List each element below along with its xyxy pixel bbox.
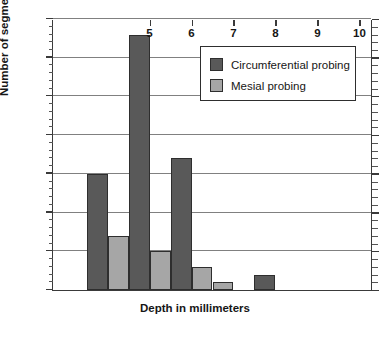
right-tick-minor bbox=[372, 50, 378, 51]
right-tick-minor bbox=[372, 89, 378, 90]
y-tick-minor bbox=[49, 88, 53, 89]
y-tick-major bbox=[46, 95, 53, 96]
y-tick-minor bbox=[49, 181, 53, 182]
right-tick-major bbox=[372, 290, 379, 291]
y-tick-minor bbox=[49, 103, 53, 104]
right-tick-minor bbox=[372, 65, 378, 66]
y-tick-minor bbox=[49, 165, 53, 166]
right-tick-minor bbox=[372, 220, 378, 221]
y-tick-minor bbox=[49, 150, 53, 151]
right-tick-major bbox=[372, 135, 379, 136]
y-tick-minor bbox=[49, 258, 53, 259]
x-tick-label: 6 bbox=[180, 27, 204, 39]
bar-chart: Number of segments 05101520253035 567891… bbox=[0, 0, 390, 341]
y-tick-major bbox=[46, 211, 53, 212]
x-tick-label: 7 bbox=[221, 27, 245, 39]
right-tick-minor bbox=[372, 120, 378, 121]
x-tick bbox=[192, 20, 193, 26]
y-tick-major bbox=[46, 18, 53, 19]
right-tick-minor bbox=[372, 282, 378, 283]
y-tick-minor bbox=[49, 235, 53, 236]
y-tick-minor bbox=[49, 157, 53, 158]
right-tick-minor bbox=[372, 112, 378, 113]
y-tick-minor bbox=[49, 188, 53, 189]
y-tick-minor bbox=[49, 111, 53, 112]
y-tick-minor bbox=[49, 41, 53, 42]
y-tick-minor bbox=[49, 142, 53, 143]
right-tick-minor bbox=[372, 27, 378, 28]
right-tick-minor bbox=[372, 35, 378, 36]
right-tick-minor bbox=[372, 104, 378, 105]
y-tick-minor bbox=[49, 266, 53, 267]
y-tick-minor bbox=[49, 227, 53, 228]
right-tick-minor bbox=[372, 151, 378, 152]
right-tick-minor bbox=[372, 158, 378, 159]
y-tick-major bbox=[46, 56, 53, 57]
legend-item: Mesial probing bbox=[210, 75, 355, 96]
bar bbox=[87, 174, 108, 290]
bar bbox=[213, 282, 234, 290]
bar bbox=[129, 35, 150, 291]
y-tick-minor bbox=[49, 80, 53, 81]
right-axis-ticks bbox=[371, 20, 379, 291]
legend-swatch-circumferential bbox=[210, 58, 223, 71]
legend-swatch-mesial bbox=[210, 79, 223, 92]
gridline bbox=[53, 134, 371, 135]
y-tick-minor bbox=[49, 204, 53, 205]
y-axis-title: Number of segments bbox=[0, 0, 10, 96]
bar bbox=[192, 267, 213, 290]
x-tick bbox=[233, 20, 234, 26]
right-tick-major bbox=[372, 173, 379, 174]
y-tick-major bbox=[46, 289, 53, 290]
right-tick-minor bbox=[372, 182, 378, 183]
right-tick-minor bbox=[372, 189, 378, 190]
right-tick-minor bbox=[372, 42, 378, 43]
right-tick-major bbox=[372, 57, 379, 58]
right-tick-minor bbox=[372, 166, 378, 167]
y-tick-minor bbox=[49, 49, 53, 50]
right-tick-minor bbox=[372, 205, 378, 206]
y-tick-major bbox=[46, 134, 53, 135]
legend-label-circumferential: Circumferential probing bbox=[231, 59, 350, 71]
y-tick-minor bbox=[49, 64, 53, 65]
x-tick bbox=[359, 20, 360, 26]
y-tick-minor bbox=[49, 274, 53, 275]
x-tick-label: 5 bbox=[138, 27, 162, 39]
right-tick-major bbox=[372, 212, 379, 213]
x-tick-label: 8 bbox=[263, 27, 287, 39]
bar bbox=[150, 251, 171, 290]
x-tick-label: 9 bbox=[305, 27, 329, 39]
right-tick-major bbox=[372, 251, 379, 252]
right-tick-minor bbox=[372, 73, 378, 74]
bar bbox=[254, 275, 275, 290]
right-tick-minor bbox=[372, 236, 378, 237]
x-axis-title: Depth in millimeters bbox=[0, 302, 390, 314]
y-tick-minor bbox=[49, 26, 53, 27]
right-tick-minor bbox=[372, 228, 378, 229]
y-tick-minor bbox=[49, 126, 53, 127]
legend-item: Circumferential probing bbox=[210, 54, 355, 75]
right-tick-major bbox=[372, 19, 379, 20]
y-tick-major bbox=[46, 250, 53, 251]
y-tick-minor bbox=[49, 281, 53, 282]
right-tick-minor bbox=[372, 127, 378, 128]
right-tick-minor bbox=[372, 81, 378, 82]
gridline bbox=[53, 18, 371, 19]
y-tick-minor bbox=[49, 34, 53, 35]
right-tick-minor bbox=[372, 275, 378, 276]
right-tick-minor bbox=[372, 267, 378, 268]
right-tick-minor bbox=[372, 197, 378, 198]
y-tick-minor bbox=[49, 243, 53, 244]
y-tick-minor bbox=[49, 219, 53, 220]
right-tick-minor bbox=[372, 143, 378, 144]
right-tick-minor bbox=[372, 259, 378, 260]
y-tick-major bbox=[46, 172, 53, 173]
chart-legend: Circumferential probing Mesial probing bbox=[200, 46, 356, 101]
x-tick bbox=[275, 20, 276, 26]
right-tick-major bbox=[372, 96, 379, 97]
x-tick bbox=[150, 20, 151, 26]
y-tick-minor bbox=[49, 72, 53, 73]
x-tick bbox=[317, 20, 318, 26]
y-tick-minor bbox=[49, 119, 53, 120]
legend-label-mesial: Mesial probing bbox=[231, 80, 306, 92]
